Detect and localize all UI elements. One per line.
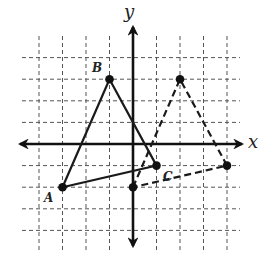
coordinate-plane: x y A B C: [0, 0, 270, 263]
label-a: A: [43, 191, 53, 205]
triangles: [63, 79, 228, 187]
vertex-point-b: [105, 75, 114, 84]
vertex-point-c: [152, 161, 161, 170]
x-axis-label: x: [248, 131, 258, 152]
vertex-point-b-prime: [176, 75, 185, 84]
label-b: B: [91, 61, 102, 75]
vertex-point-c-prime: [223, 161, 232, 170]
y-axis-label: y: [123, 1, 135, 22]
label-c: C: [163, 170, 173, 184]
vertex-point-a: [58, 183, 67, 192]
vertices: [58, 75, 231, 192]
vertex-point-a-prime: [129, 183, 138, 192]
axes: x y: [20, 1, 258, 246]
